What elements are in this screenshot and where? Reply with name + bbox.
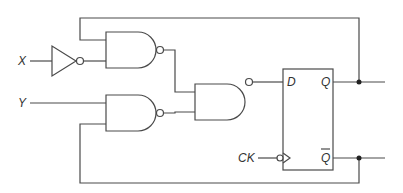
inverter-bubble	[77, 58, 84, 65]
nand-2-bubble	[157, 110, 164, 117]
d-label: D	[287, 75, 296, 89]
nand-gate-1	[106, 32, 156, 68]
nand-gate-3	[195, 84, 245, 120]
circuit-diagram: X Y CK D Q Q	[0, 0, 403, 193]
q-junction-dot	[357, 80, 362, 85]
nand-1-bubble	[157, 47, 164, 54]
nand-3-bubble	[246, 79, 253, 86]
nand-gate-2	[106, 95, 156, 131]
x-label: X	[17, 54, 27, 68]
inverter-gate	[52, 46, 76, 76]
nand-1-output-wire	[164, 50, 195, 92]
clock-bubble	[277, 155, 283, 161]
q-label: Q	[321, 75, 330, 89]
ck-label: CK	[238, 151, 256, 165]
y-label: Y	[18, 96, 27, 110]
nand-2-output-wire	[164, 112, 195, 113]
qbar-label: Q	[321, 151, 330, 165]
qbar-junction-dot	[357, 156, 362, 161]
